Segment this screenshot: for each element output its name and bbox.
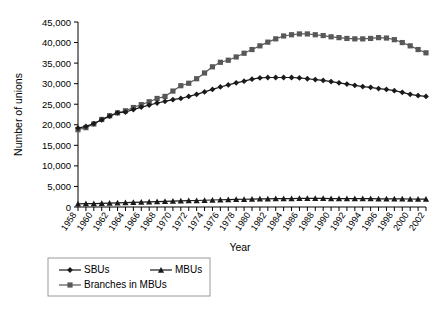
data-point-marker — [344, 36, 349, 41]
x-axis-title: Year — [229, 241, 251, 253]
data-point-marker — [336, 35, 341, 40]
data-point-marker — [336, 80, 342, 86]
data-point-marker — [194, 91, 200, 97]
data-point-marker — [352, 82, 358, 88]
data-point-marker — [408, 43, 413, 48]
data-point-marker — [249, 47, 254, 52]
x-axis-tick-label: 1982 — [249, 210, 269, 232]
data-point-marker — [210, 64, 215, 69]
data-point-marker — [415, 93, 421, 99]
x-axis-tick-label: 1992 — [328, 210, 348, 232]
x-axis-tick-label: 1988 — [296, 210, 316, 232]
data-point-marker — [313, 32, 318, 37]
data-point-marker — [320, 77, 326, 83]
data-point-marker — [202, 70, 207, 75]
x-axis-tick-label: 1974 — [186, 210, 206, 232]
x-axis-tick-label: 1964 — [106, 210, 126, 232]
data-point-marker — [415, 47, 420, 52]
data-point-marker — [368, 84, 374, 90]
chart-legend: SBUsMBUsBranches in MBUs — [48, 258, 210, 296]
y-axis-tick-label: 30,000 — [42, 78, 71, 89]
x-axis-tick-label: 1960 — [75, 210, 95, 232]
data-point-marker — [186, 81, 191, 86]
x-axis-tick-label: 1980 — [233, 210, 253, 232]
data-point-marker — [376, 35, 381, 40]
data-point-marker — [210, 87, 216, 93]
data-point-marker — [328, 79, 334, 85]
chart-container: 05,00010,00015,00020,00025,00030,00035,0… — [0, 0, 445, 315]
data-point-marker — [392, 37, 397, 42]
x-axis-tick-label: 1970 — [154, 210, 174, 232]
x-axis-tick-label: 1978 — [217, 210, 237, 232]
data-point-marker — [257, 75, 263, 81]
data-point-marker — [162, 94, 167, 99]
x-axis-tick-label: 1996 — [360, 210, 380, 232]
y-axis-tick-label: 25,000 — [42, 99, 71, 110]
data-point-marker — [384, 35, 389, 40]
data-point-marker — [178, 83, 183, 88]
x-axis-tick-label: 2002 — [407, 210, 427, 232]
x-axis-tick-label: 1976 — [201, 210, 221, 232]
x-axis-tick-label: 1968 — [138, 210, 158, 232]
legend-label: SBUs — [84, 264, 110, 275]
data-point-marker — [178, 96, 184, 102]
x-axis-tick-label: 2000 — [391, 210, 411, 232]
x-axis-tick-label: 1990 — [312, 210, 332, 232]
data-point-marker — [400, 40, 405, 45]
y-axis-tick-label: 15,000 — [42, 140, 71, 151]
data-point-marker — [297, 75, 303, 81]
x-axis-tick-label: 1962 — [91, 210, 111, 232]
data-point-marker — [170, 97, 176, 103]
legend-label: MBUs — [175, 264, 202, 275]
x-axis-tick-label: 1958 — [59, 210, 79, 232]
data-point-marker — [368, 36, 373, 41]
data-point-marker — [297, 31, 302, 36]
x-axis-tick-label: 1998 — [375, 210, 395, 232]
data-point-marker — [391, 88, 397, 94]
data-point-marker — [328, 34, 333, 39]
data-point-marker — [226, 58, 231, 63]
data-point-marker — [273, 36, 278, 41]
data-point-marker — [305, 31, 310, 36]
x-axis-tick-label: 1984 — [265, 210, 285, 232]
number-of-unions-line-chart: 05,00010,00015,00020,00025,00030,00035,0… — [0, 0, 445, 315]
y-axis-tick-label: 10,000 — [42, 160, 71, 171]
data-point-marker — [384, 87, 390, 93]
y-axis-tick-label: 20,000 — [42, 119, 71, 130]
data-point-marker — [217, 84, 223, 90]
series-sbus — [75, 75, 429, 131]
data-point-marker — [407, 91, 413, 97]
series-mbus — [75, 195, 429, 206]
x-axis-tick-label: 1972 — [170, 210, 190, 232]
data-point-marker — [312, 77, 318, 83]
data-point-marker — [67, 282, 72, 287]
x-axis-tick-label: 1994 — [344, 210, 364, 232]
data-point-marker — [265, 75, 271, 81]
data-point-marker — [376, 86, 382, 92]
x-axis-tick-label: 1986 — [280, 210, 300, 232]
data-point-marker — [360, 84, 366, 90]
data-point-marker — [249, 76, 255, 82]
data-point-marker — [194, 76, 199, 81]
data-point-marker — [234, 54, 239, 59]
data-point-marker — [273, 75, 279, 81]
data-point-marker — [423, 94, 429, 100]
data-point-marker — [225, 82, 231, 88]
y-axis-tick-label: 40,000 — [42, 37, 71, 48]
data-point-marker — [241, 51, 246, 56]
data-point-marker — [423, 50, 428, 55]
y-axis-title: Number of unions — [12, 73, 24, 156]
data-point-marker — [241, 78, 247, 84]
data-point-marker — [360, 36, 365, 41]
series-line — [78, 78, 426, 129]
legend-label: Branches in MBUs — [84, 279, 167, 290]
data-point-marker — [162, 98, 168, 104]
x-axis-tick-label: 1966 — [122, 210, 142, 232]
data-point-marker — [257, 43, 262, 48]
data-point-marker — [170, 88, 175, 93]
data-point-marker — [218, 60, 223, 65]
data-point-marker — [352, 36, 357, 41]
y-axis-tick-label: 35,000 — [42, 58, 71, 69]
data-point-marker — [304, 76, 310, 82]
data-point-marker — [321, 33, 326, 38]
